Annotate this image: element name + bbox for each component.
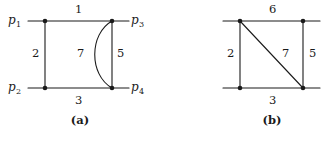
panel-b-graph	[223, 19, 320, 91]
vertex-p3	[110, 19, 115, 24]
vertex-label-p3: p3	[131, 14, 144, 26]
edge-weight-b-6: 6	[269, 4, 276, 16]
vertex-p4	[110, 86, 115, 91]
vertex-label-p2: p2	[8, 81, 21, 93]
edge-a-7-curve	[95, 21, 112, 88]
edge-weight-b-5: 5	[309, 48, 316, 60]
figure-container: p1 p3 p2 p4 1 2 3 5 7 (a) 6 2 3 5 7 (b)	[0, 0, 334, 141]
edge-weight-b-3: 3	[269, 95, 276, 107]
vertex-b-bottom-right	[301, 86, 306, 91]
edge-weight-a-3: 3	[75, 95, 82, 107]
edge-weight-b-7: 7	[282, 48, 289, 60]
vertex-b-top-right	[301, 19, 306, 24]
edge-weight-a-1: 1	[75, 4, 82, 16]
vertex-label-p4: p4	[131, 81, 144, 93]
panel-b-caption: (b)	[258, 115, 286, 127]
panel-a-caption: (a)	[66, 115, 94, 127]
edge-weight-a-5: 5	[117, 48, 124, 60]
vertex-p2	[43, 86, 48, 91]
vertex-p1	[43, 19, 48, 24]
edge-weight-a-2: 2	[32, 48, 39, 60]
vertex-label-p1: p1	[8, 14, 21, 26]
vertex-b-bottom-left	[238, 86, 243, 91]
edge-weight-b-2: 2	[227, 48, 234, 60]
edge-weight-a-7: 7	[77, 48, 84, 60]
vertex-b-top-left	[238, 19, 243, 24]
edge-b-7-diagonal	[240, 21, 303, 88]
